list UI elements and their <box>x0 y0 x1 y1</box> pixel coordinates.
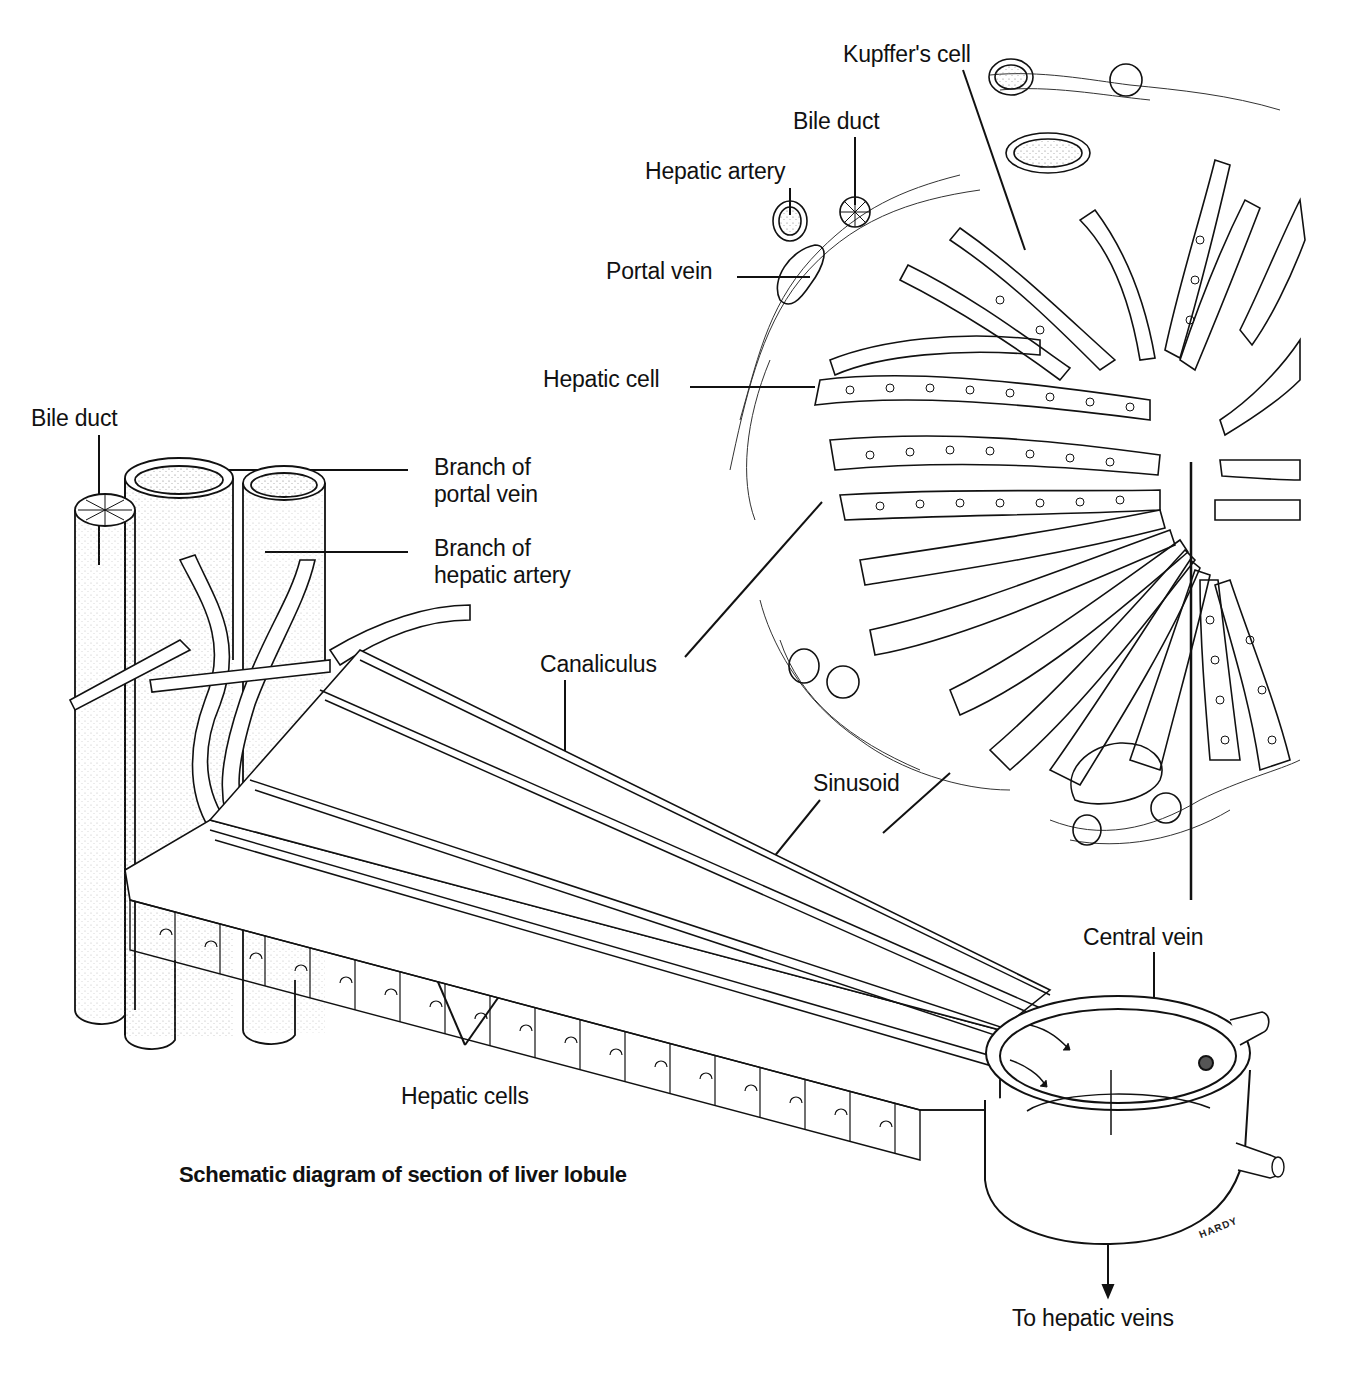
label-branch-hepatic-artery-1: Branch of <box>434 535 531 561</box>
central-vein-cup <box>985 996 1284 1244</box>
label-sinusoid: Sinusoid <box>813 770 900 796</box>
label-bile-duct-tube: Bile duct <box>31 405 117 431</box>
label-branch-portal-vein-1: Branch of <box>434 454 531 480</box>
label-central-vein: Central vein <box>1083 924 1203 950</box>
label-to-hepatic-veins: To hepatic veins <box>1012 1305 1174 1331</box>
outflow-arrowhead <box>1103 1285 1113 1297</box>
figure-caption: Schematic diagram of section of liver lo… <box>179 1162 627 1188</box>
label-bile-duct-cross-section: Bile duct <box>793 108 879 134</box>
label-hepatic-artery: Hepatic artery <box>645 158 785 184</box>
label-canaliculus: Canaliculus <box>540 651 657 677</box>
label-portal-vein: Portal vein <box>606 258 712 284</box>
hepatic-cell-cords <box>815 160 1305 785</box>
label-hepatic-cell: Hepatic cell <box>543 366 660 392</box>
label-hepatic-cells: Hepatic cells <box>401 1083 529 1109</box>
hepatic-cells-leader-b <box>465 995 500 1045</box>
label-branch-portal-vein-2: portal vein <box>434 481 538 507</box>
label-kupffers-cell: Kupffer's cell <box>843 41 971 67</box>
label-branch-hepatic-artery-2: hepatic artery <box>434 562 571 588</box>
kupffers-cell-leader <box>963 70 1025 250</box>
lobule-cross-section <box>730 59 1305 845</box>
canaliculus-cross-leader <box>685 502 822 657</box>
